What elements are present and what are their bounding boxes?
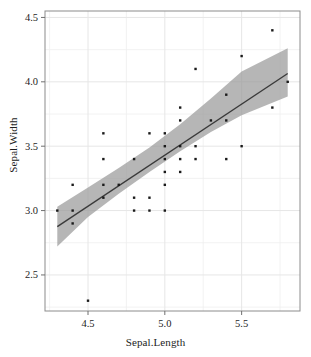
- data-point: [179, 158, 181, 160]
- x-tick-label: 5.5: [235, 318, 248, 329]
- data-point: [164, 171, 166, 173]
- data-point: [194, 158, 196, 160]
- x-axis-ticks: 4.55.05.5: [81, 311, 248, 329]
- data-point: [225, 93, 227, 95]
- x-axis-title: Sepal.Length: [0, 336, 311, 348]
- data-point: [148, 132, 150, 134]
- data-point: [164, 145, 166, 147]
- data-point: [71, 209, 73, 211]
- y-tick-label: 2.5: [25, 269, 38, 280]
- data-point: [102, 132, 104, 134]
- y-tick-label: 3.0: [25, 205, 38, 216]
- y-tick-label: 4.0: [25, 76, 38, 87]
- data-point: [133, 158, 135, 160]
- data-point: [271, 106, 273, 108]
- data-point: [164, 158, 166, 160]
- data-point: [164, 184, 166, 186]
- data-point: [148, 209, 150, 211]
- y-axis-ticks: 2.53.03.54.04.5: [25, 12, 45, 281]
- data-point: [102, 196, 104, 198]
- data-point: [194, 145, 196, 147]
- data-point: [133, 209, 135, 211]
- data-point: [179, 119, 181, 121]
- chart-figure: 4.55.05.5 2.53.03.54.04.5 Sepal.Length S…: [0, 0, 311, 357]
- data-point: [240, 55, 242, 57]
- data-point: [179, 145, 181, 147]
- data-point: [194, 68, 196, 70]
- y-axis-title: Sepal.Width: [7, 117, 19, 172]
- data-point: [71, 222, 73, 224]
- data-point: [179, 106, 181, 108]
- data-point: [210, 119, 212, 121]
- y-tick-label: 3.5: [25, 141, 38, 152]
- data-point: [164, 209, 166, 211]
- data-point: [240, 145, 242, 147]
- data-point: [56, 209, 58, 211]
- data-point: [225, 158, 227, 160]
- data-point: [287, 81, 289, 83]
- y-tick-label: 4.5: [25, 12, 38, 23]
- data-point: [164, 132, 166, 134]
- y-axis-title-wrapper: Sepal.Width: [3, 95, 21, 195]
- x-tick-label: 4.5: [81, 318, 94, 329]
- data-point: [87, 299, 89, 301]
- data-point: [148, 196, 150, 198]
- scatter-plot-canvas: 4.55.05.5 2.53.03.54.04.5: [0, 0, 311, 357]
- data-point: [118, 184, 120, 186]
- data-point: [71, 184, 73, 186]
- data-point: [133, 196, 135, 198]
- x-tick-label: 5.0: [158, 318, 171, 329]
- plot-background: [45, 11, 300, 311]
- data-point: [102, 184, 104, 186]
- data-point: [179, 171, 181, 173]
- data-point: [102, 158, 104, 160]
- data-point: [271, 29, 273, 31]
- data-point: [225, 119, 227, 121]
